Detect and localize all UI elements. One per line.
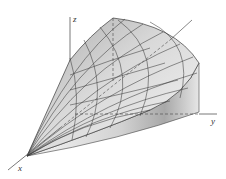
y-axis-label: y <box>210 116 215 126</box>
solid-region-diagram: z y x <box>0 0 226 179</box>
y-axis: y <box>199 114 217 126</box>
diagonal-axis-line <box>170 20 192 40</box>
x-axis-label: x <box>17 163 22 173</box>
z-axis-label: z <box>72 14 77 24</box>
